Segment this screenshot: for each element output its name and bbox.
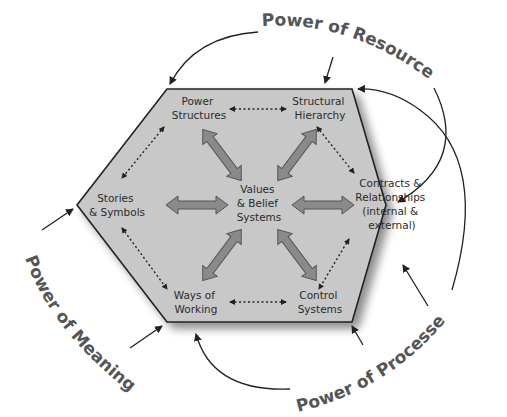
center-label: Values & Belief Systems (237, 183, 282, 223)
power-of-resources-label: Power of Resources (0, 0, 438, 83)
cultural-web-diagram: Values & Belief Systems Power Structures… (0, 0, 507, 417)
power-of-meaning-label: Power of Meaning (21, 252, 140, 395)
